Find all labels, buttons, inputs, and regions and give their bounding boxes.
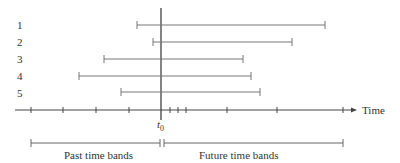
interval-row-4 bbox=[79, 72, 251, 80]
t0-label: t0 bbox=[157, 119, 164, 133]
time-band-diagram bbox=[0, 0, 400, 163]
time-axis bbox=[15, 107, 352, 113]
future-band-bracket bbox=[164, 139, 343, 147]
row-label-5: 5 bbox=[17, 88, 23, 99]
axis-label-time: Time bbox=[362, 105, 385, 116]
interval-row-5 bbox=[121, 88, 260, 96]
future-band-label: Future time bands bbox=[199, 150, 278, 161]
arrow-right-icon bbox=[351, 108, 357, 113]
row-label-3: 3 bbox=[17, 54, 23, 65]
interval-row-2 bbox=[153, 38, 292, 46]
past-band-label: Past time bands bbox=[64, 150, 133, 161]
row-label-1: 1 bbox=[17, 20, 23, 31]
row-label-2: 2 bbox=[17, 37, 23, 48]
row-label-4: 4 bbox=[17, 71, 23, 82]
interval-row-1 bbox=[137, 21, 325, 29]
interval-row-3 bbox=[104, 55, 243, 63]
past-band-bracket bbox=[31, 139, 160, 147]
